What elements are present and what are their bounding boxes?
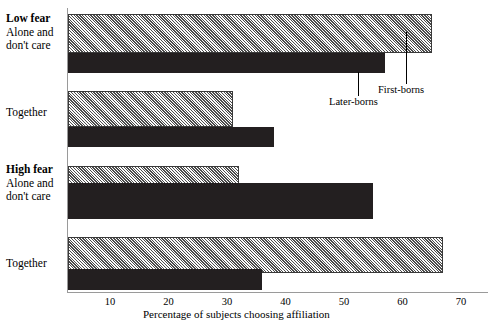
series-label-later-borns: Later-borns bbox=[329, 96, 378, 107]
x-tick-label-40: 40 bbox=[271, 296, 301, 307]
bar-high-fear-together-first-borns bbox=[68, 237, 443, 273]
category-label-high-fear-alone: High fear Alone and don't care bbox=[6, 163, 54, 204]
callout-leader-line-first-borns bbox=[406, 32, 407, 84]
category-sub-line2: don't care bbox=[6, 39, 54, 53]
category-label-text: Together bbox=[6, 106, 47, 120]
category-sub-line1: Alone and bbox=[6, 26, 54, 40]
bar-low-fear-alone-first-borns bbox=[68, 14, 432, 53]
x-tick-label-60: 60 bbox=[388, 296, 418, 307]
x-axis-title: Percentage of subjects choosing affiliat… bbox=[143, 308, 330, 320]
bar-low-fear-together-later-borns bbox=[68, 127, 274, 147]
bar-high-fear-alone-later-borns bbox=[68, 183, 373, 219]
x-tick-label-30: 30 bbox=[212, 296, 242, 307]
bar-low-fear-alone-later-borns bbox=[68, 53, 385, 73]
category-label-low-fear-alone: Low fear Alone and don't care bbox=[6, 12, 54, 53]
x-axis-line bbox=[67, 292, 488, 293]
x-tick-label-10: 10 bbox=[95, 296, 125, 307]
category-label-high-fear-together: Together bbox=[6, 257, 47, 271]
bar-low-fear-together-first-borns bbox=[68, 91, 233, 127]
category-sub-line1: Alone and bbox=[6, 177, 54, 191]
category-label-text: Together bbox=[6, 257, 47, 271]
x-tick-label-70: 70 bbox=[446, 296, 476, 307]
category-sub-line2: don't care bbox=[6, 190, 54, 204]
category-label-low-fear-together: Together bbox=[6, 106, 47, 120]
callout-leader-line-later-borns bbox=[358, 72, 359, 96]
x-tick-label-20: 20 bbox=[154, 296, 184, 307]
bar-chart: Low fear Alone and don't care Together H… bbox=[0, 0, 488, 329]
group-label-low-fear: Low fear bbox=[6, 12, 54, 26]
series-label-first-borns: First-borns bbox=[378, 84, 424, 95]
bar-high-fear-together-later-borns bbox=[68, 269, 262, 290]
group-label-high-fear: High fear bbox=[6, 163, 54, 177]
x-tick-label-50: 50 bbox=[329, 296, 359, 307]
